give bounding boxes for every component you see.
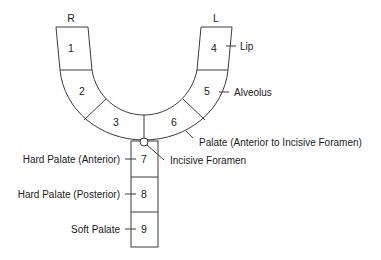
label-incisive-foramen: Incisive Foramen xyxy=(170,155,246,166)
zone-3: 3 xyxy=(113,116,119,128)
incisive-foramen-circle xyxy=(140,138,148,146)
zone-9: 9 xyxy=(141,223,147,235)
label-hard-palate-posterior: Hard Palate (Posterior) xyxy=(18,189,120,200)
divider-2-3 xyxy=(84,99,106,120)
zone-7: 7 xyxy=(141,153,147,165)
palate-anterior-leader xyxy=(186,131,193,138)
zone-4: 4 xyxy=(211,42,217,54)
incisive-foramen-leader xyxy=(147,145,164,160)
label-lip: Lip xyxy=(240,41,254,52)
side-label-left: L xyxy=(213,12,219,24)
zone-8: 8 xyxy=(141,188,147,200)
label-hard-palate-anterior: Hard Palate (Anterior) xyxy=(23,154,120,165)
u-inner-outline xyxy=(88,27,201,115)
zone-1: 1 xyxy=(68,42,74,54)
label-alveolus: Alveolus xyxy=(234,87,272,98)
divider-5-6 xyxy=(183,99,205,120)
palate-diagram: R L 1 2 3 4 5 6 7 8 9 Lip Alveolus Palat… xyxy=(0,0,381,260)
zone-6: 6 xyxy=(171,116,177,128)
side-label-right: R xyxy=(67,12,75,24)
label-soft-palate: Soft Palate xyxy=(71,224,120,235)
zone-5: 5 xyxy=(204,85,210,97)
zone-2: 2 xyxy=(79,85,85,97)
label-palate-anterior: Palate (Anterior to Incisive Foramen) xyxy=(199,137,362,148)
